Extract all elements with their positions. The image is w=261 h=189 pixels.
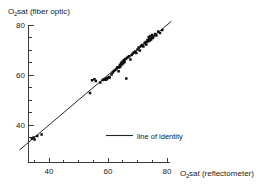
data-point xyxy=(155,34,158,37)
data-point xyxy=(99,81,102,84)
data-point xyxy=(40,133,43,136)
data-point xyxy=(152,35,155,38)
data-point xyxy=(91,79,94,82)
legend-label-line-of-identity: line of identity xyxy=(137,132,183,141)
data-point xyxy=(161,29,164,32)
data-point xyxy=(159,32,162,35)
y-axis-title-rest: sat (fiber optic) xyxy=(17,7,70,16)
plot-axes xyxy=(28,25,170,163)
data-point xyxy=(95,80,98,83)
data-point xyxy=(109,76,112,79)
data-point xyxy=(145,43,148,46)
data-point xyxy=(89,92,92,95)
data-point xyxy=(36,135,39,138)
data-point xyxy=(125,77,128,80)
y-axis-title-group: O 2 sat (fiber optic) xyxy=(8,7,70,17)
tick-labels: 406080406080 xyxy=(16,21,172,176)
data-point xyxy=(33,138,36,141)
scatter-plot: 406080406080 O 2 sat (fiber optic) O 2 s… xyxy=(0,0,261,189)
x-axis-title-rest: sat (reflectometer) xyxy=(189,169,254,178)
data-point xyxy=(142,45,145,48)
data-point xyxy=(137,46,140,49)
x-tick-label: 60 xyxy=(104,167,113,176)
legend: line of identity xyxy=(106,132,183,141)
y-tick-label: 40 xyxy=(16,121,25,130)
y-tick-label: 60 xyxy=(16,71,25,80)
data-point xyxy=(135,52,138,55)
data-point xyxy=(128,55,130,58)
data-point xyxy=(123,61,126,64)
chart-figure: 406080406080 O 2 sat (fiber optic) O 2 s… xyxy=(0,0,261,189)
data-point xyxy=(129,58,132,61)
data-point xyxy=(117,70,120,73)
y-tick-label: 80 xyxy=(16,21,25,30)
x-tick-label: 80 xyxy=(163,167,172,176)
x-axis-title-group: O 2 sat (reflectometer) xyxy=(180,169,254,179)
x-tick-label: 40 xyxy=(45,167,54,176)
data-point xyxy=(139,49,142,52)
